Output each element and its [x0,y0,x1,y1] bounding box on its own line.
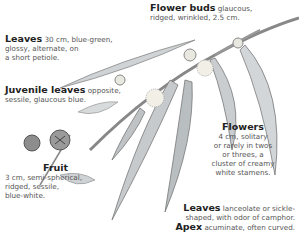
label-fruit: Fruit 3 cm, semi-spherical, ridged, sess… [5,163,95,200]
label-leaves-top: Leaves 30 cm, blue-green, glossy, altern… [5,34,115,62]
flower-bud [184,49,196,61]
fruit [24,135,40,151]
flower [146,89,164,107]
flower-bud [115,75,125,85]
label-leaves-bottom: Leaves lanceolate or sickle- shaped, wit… [155,203,295,232]
flower [197,60,213,76]
label-flower-buds: Flower buds glaucous, ridged, wrinkled, … [150,3,299,22]
label-flowers: Flowers 4 cm, solitary or rarely in twos… [203,122,283,177]
label-title: Flower buds [150,2,216,13]
flower-bud [233,38,243,48]
label-juvenile-leaves: Juvenile leaves opposite, sessile, glauc… [5,85,125,104]
